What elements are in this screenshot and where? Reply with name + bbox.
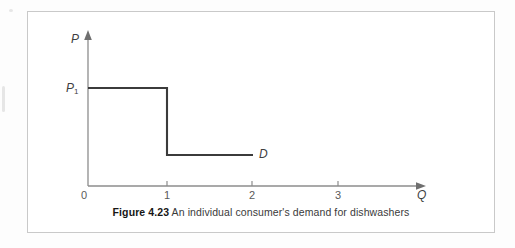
price-symbol: P xyxy=(66,81,74,95)
x-tick-label-1: 1 xyxy=(164,190,170,201)
figure-caption-text: An individual consumer's demand for dish… xyxy=(169,206,409,218)
origin-label: 0 xyxy=(81,190,87,201)
figure-caption-number: Figure 4.23 xyxy=(113,206,170,218)
y-axis-label: P xyxy=(71,33,79,45)
y-axis-arrow-icon xyxy=(84,30,92,40)
scanned-page: P Q 0 1 2 3 P1 D Figure 4.23 An individu… xyxy=(0,0,515,248)
figure-caption: Figure 4.23 An individual consumer's dem… xyxy=(27,206,495,218)
x-tick-label-2: 2 xyxy=(249,190,255,201)
demand-curve-label: D xyxy=(259,148,268,160)
price-subscript: 1 xyxy=(74,87,78,96)
demand-curve xyxy=(88,88,253,155)
y-tick-label-p1: P1 xyxy=(66,82,78,94)
x-tick-label-3: 3 xyxy=(335,190,341,201)
x-axis-label: Q xyxy=(417,189,426,201)
